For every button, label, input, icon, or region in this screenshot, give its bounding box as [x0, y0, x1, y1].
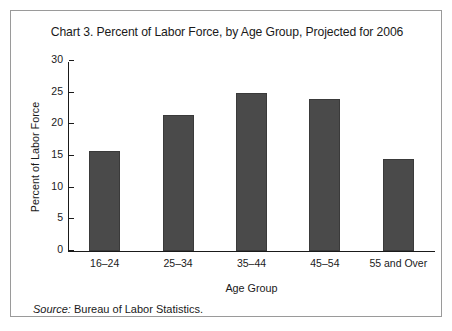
y-tick-mark [69, 187, 74, 188]
y-tick-label: 30 [51, 53, 63, 65]
y-tick: 10 [68, 187, 74, 188]
y-axis-title: Percent of Labor Force [29, 62, 43, 252]
y-tick-mark [69, 218, 74, 219]
x-tick-label: 16–24 [68, 257, 141, 269]
chart-figure-frame: Chart 3. Percent of Labor Force, by Age … [10, 10, 442, 317]
source-label: Source: [33, 303, 71, 315]
bar [89, 151, 120, 251]
y-tick-mark [69, 92, 74, 93]
y-tick-mark [69, 123, 74, 124]
bar [383, 159, 414, 251]
y-tick-label: 15 [51, 148, 63, 160]
y-tick-label: 5 [57, 211, 63, 223]
y-tick: 30 [68, 60, 74, 61]
source-note: Source: Bureau of Labor Statistics. [33, 303, 203, 315]
bar [236, 93, 267, 251]
bar [309, 99, 340, 251]
x-tick-label: 35–44 [215, 257, 288, 269]
y-tick-label: 25 [51, 85, 63, 97]
chart-title: Chart 3. Percent of Labor Force, by Age … [11, 25, 443, 39]
bar [163, 115, 194, 251]
y-tick-label: 0 [57, 243, 63, 255]
y-tick-mark [69, 60, 74, 61]
y-tick: 5 [68, 218, 74, 219]
y-tick-label: 10 [51, 180, 63, 192]
x-axis-line [68, 251, 435, 252]
y-tick-label: 20 [51, 116, 63, 128]
y-tick-mark [69, 155, 74, 156]
y-tick: 15 [68, 155, 74, 156]
x-axis-title: Age Group [68, 282, 435, 294]
y-tick: 25 [68, 92, 74, 93]
plot-area: 051015202530 16–2425–3435–4445–5455 and … [68, 62, 443, 252]
source-text: Bureau of Labor Statistics. [74, 303, 203, 315]
x-tick-label: 25–34 [141, 257, 214, 269]
x-tick-label: 55 and Over [362, 257, 435, 269]
x-tick-label: 45–54 [288, 257, 361, 269]
y-tick: 20 [68, 123, 74, 124]
y-tick-mark [69, 250, 74, 251]
y-tick: 0 [68, 250, 74, 251]
y-axis-line [68, 62, 69, 252]
